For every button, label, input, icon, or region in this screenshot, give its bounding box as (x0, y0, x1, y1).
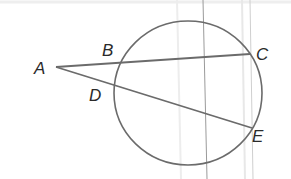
circle (114, 21, 262, 165)
label-c: C (256, 45, 269, 64)
label-e: E (252, 127, 264, 146)
label-d: D (89, 86, 101, 105)
secant-diagram: A B C D E (0, 0, 291, 179)
label-b: B (102, 41, 113, 60)
label-a: A (33, 59, 45, 78)
secant-ae (56, 67, 252, 128)
secant-ac (56, 54, 250, 67)
